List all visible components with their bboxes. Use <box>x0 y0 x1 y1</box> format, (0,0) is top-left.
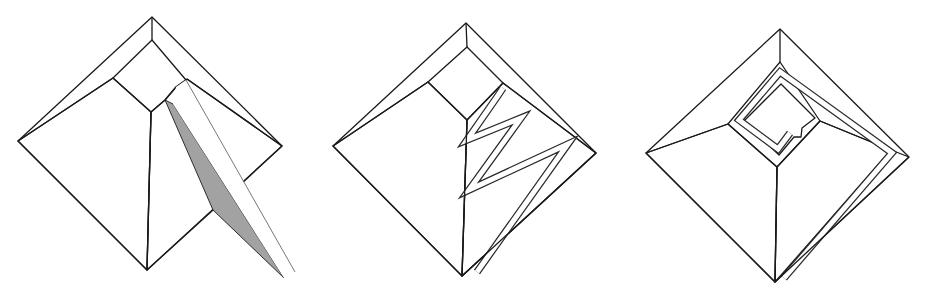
pyramid-rim <box>646 29 909 282</box>
pyramid-right-face <box>775 121 891 282</box>
panel-spiral-ramp <box>646 29 909 282</box>
ramp-shadow <box>165 100 284 278</box>
pyramid-ramp-figure <box>0 0 928 297</box>
pyramid-left-face <box>646 124 777 282</box>
panel-straight-ramp <box>18 17 295 278</box>
straight-ramp-path <box>173 80 295 278</box>
pyramid-left-face <box>18 78 151 270</box>
panel-zigzag-ramp <box>333 23 596 276</box>
pyramid-left-face <box>333 82 467 276</box>
